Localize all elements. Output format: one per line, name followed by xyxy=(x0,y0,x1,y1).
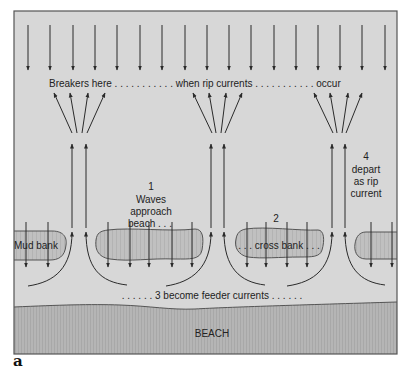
step4-line3: current xyxy=(350,188,381,199)
step4-number: 4 xyxy=(363,151,369,162)
step4-line1: depart xyxy=(352,164,381,175)
rip-current-diagram: Breakers here . . . . . . . . . . . when… xyxy=(0,0,413,371)
step2-label: . . . cross bank . . . xyxy=(238,240,320,251)
mud-bank-label: Mud bank xyxy=(14,240,59,251)
step3-label: . . . . . . 3 become feeder currents . .… xyxy=(122,290,303,301)
breakers-label: Breakers here . . . . . . . . . . . when… xyxy=(49,78,341,89)
step4-line2: as rip xyxy=(354,176,379,187)
step1-line3: beach . . . xyxy=(128,218,172,229)
mud-bank-right xyxy=(355,232,400,259)
step2-number: 2 xyxy=(273,213,279,224)
beach-label: BEACH xyxy=(195,328,229,339)
step1-number: 1 xyxy=(148,181,154,192)
step1-line1: Waves xyxy=(136,194,166,205)
step1-line2: approach xyxy=(130,206,172,217)
figure-label: a xyxy=(13,352,23,370)
